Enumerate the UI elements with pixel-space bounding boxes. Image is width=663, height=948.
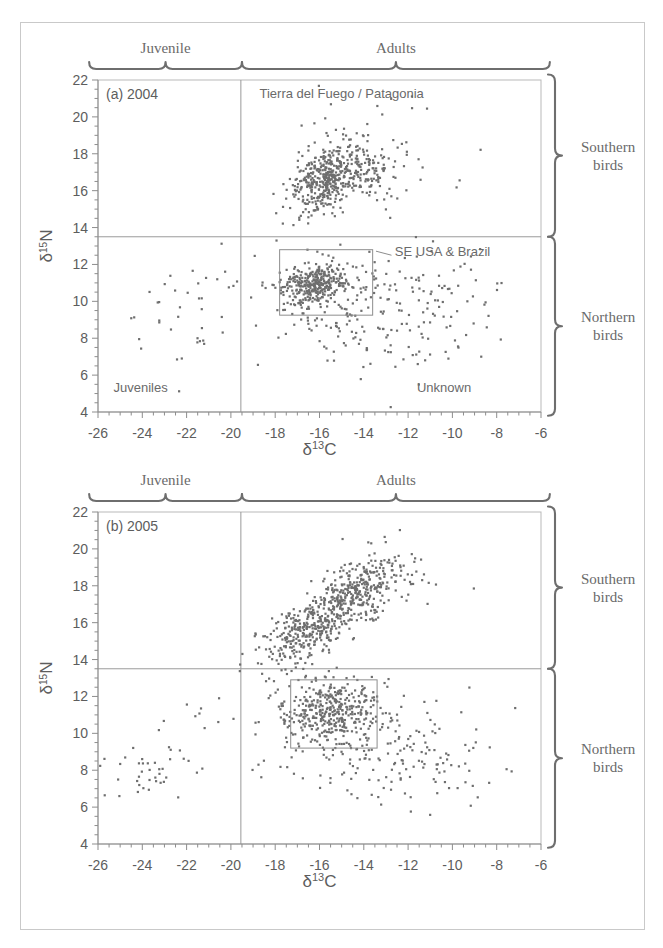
data-point <box>464 781 466 783</box>
data-point <box>325 620 327 622</box>
data-point <box>337 168 339 170</box>
data-point <box>343 620 345 622</box>
data-point <box>357 161 359 163</box>
data-point <box>323 213 325 215</box>
data-point <box>315 263 317 265</box>
data-point <box>443 316 445 318</box>
annotation-label: Unknown <box>417 380 471 395</box>
data-point <box>330 632 332 634</box>
data-point <box>280 669 282 671</box>
data-point <box>308 184 310 186</box>
y-tick-label: 8 <box>80 330 88 346</box>
data-point <box>307 277 309 279</box>
data-point <box>336 700 338 702</box>
data-point <box>399 749 401 751</box>
data-point <box>385 712 387 714</box>
x-axis-a: -26-24-22-20-18-16-14-12-10-8-6 <box>88 412 548 441</box>
data-point <box>367 179 369 181</box>
data-point <box>421 579 423 581</box>
data-point <box>319 630 321 632</box>
data-point <box>433 778 435 780</box>
data-point <box>154 776 156 778</box>
data-point <box>379 729 381 731</box>
data-point <box>409 746 411 748</box>
data-point <box>352 337 354 339</box>
data-point <box>397 147 399 149</box>
data-point <box>385 541 387 543</box>
data-point <box>293 649 295 651</box>
data-point <box>330 280 332 282</box>
panel-title-b: (b) 2005 <box>106 518 158 534</box>
data-point <box>468 686 470 688</box>
y-tick-label: 6 <box>80 367 88 383</box>
data-point <box>320 290 322 292</box>
data-point <box>340 690 342 692</box>
data-point <box>337 711 339 713</box>
data-point <box>177 316 179 318</box>
data-point <box>377 606 379 608</box>
data-point <box>333 165 335 167</box>
data-point <box>327 255 329 257</box>
data-point <box>350 713 352 715</box>
data-point <box>281 638 283 640</box>
data-point <box>374 261 376 263</box>
data-point <box>322 291 324 293</box>
data-point <box>192 270 194 272</box>
data-point <box>391 569 393 571</box>
data-point <box>390 406 392 408</box>
data-point <box>138 776 140 778</box>
data-point <box>320 720 322 722</box>
data-point <box>402 763 404 765</box>
data-point <box>426 712 428 714</box>
data-point <box>332 591 334 593</box>
data-point <box>279 766 281 768</box>
data-point <box>356 158 358 160</box>
data-point <box>395 730 397 732</box>
side-brace-label-line2: birds <box>593 327 623 343</box>
data-point <box>428 749 430 751</box>
data-point <box>388 288 390 290</box>
data-point <box>459 265 461 267</box>
data-point <box>418 351 420 353</box>
data-point <box>354 172 356 174</box>
data-point <box>372 167 374 169</box>
data-point <box>306 734 308 736</box>
data-point <box>141 771 143 773</box>
data-point <box>313 278 315 280</box>
data-point <box>298 270 300 272</box>
data-point <box>339 708 341 710</box>
data-point <box>435 583 437 585</box>
data-point <box>302 632 304 634</box>
data-point <box>333 687 335 689</box>
data-point <box>312 704 314 706</box>
data-point <box>346 323 348 325</box>
data-point <box>360 728 362 730</box>
data-point <box>390 195 392 197</box>
data-point <box>321 269 323 271</box>
data-point <box>285 737 287 739</box>
data-point <box>286 621 288 623</box>
data-point <box>330 684 332 686</box>
data-point <box>335 183 337 185</box>
data-point <box>273 284 275 286</box>
data-point <box>365 588 367 590</box>
data-point <box>286 766 288 768</box>
data-point <box>457 347 459 349</box>
data-point <box>353 602 355 604</box>
data-point <box>316 184 318 186</box>
data-point <box>347 589 349 591</box>
data-point <box>285 615 287 617</box>
data-point <box>348 694 350 696</box>
data-point <box>324 613 326 615</box>
data-point <box>331 178 333 180</box>
data-point <box>322 149 324 151</box>
data-point <box>326 592 328 594</box>
data-point <box>505 768 507 770</box>
data-point <box>384 349 386 351</box>
data-point <box>438 728 440 730</box>
data-point <box>364 700 366 702</box>
data-point <box>165 776 167 778</box>
data-point <box>203 343 205 345</box>
data-point <box>345 623 347 625</box>
data-point <box>422 166 424 168</box>
